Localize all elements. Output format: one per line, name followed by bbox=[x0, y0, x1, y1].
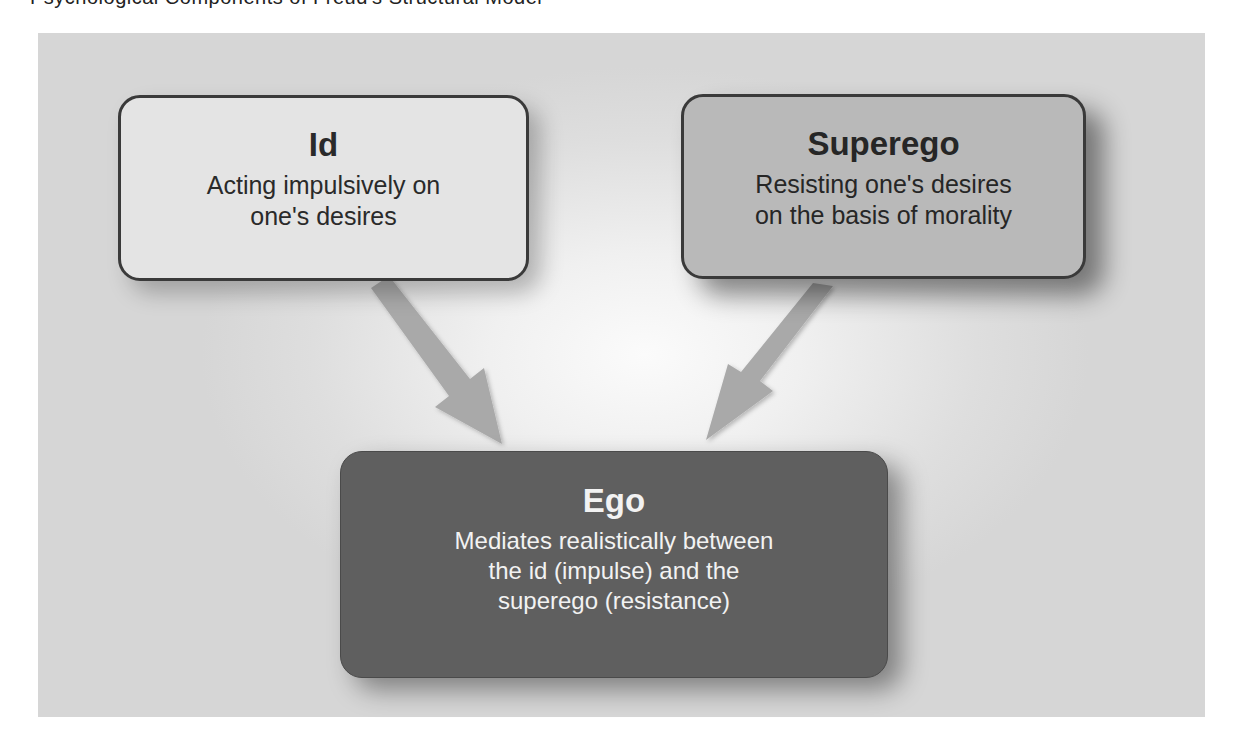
node-ego-title: Ego bbox=[341, 482, 887, 520]
node-superego-desc-line-1: Resisting one's desires bbox=[684, 169, 1083, 200]
node-id-desc-line-2: one's desires bbox=[121, 201, 526, 232]
node-ego-desc-line-3: superego (resistance) bbox=[341, 586, 887, 616]
node-superego: Superego Resisting one's desires on the … bbox=[681, 94, 1086, 279]
node-ego-desc-line-1: Mediates realistically between bbox=[341, 526, 887, 556]
node-id-desc-line-1: Acting impulsively on bbox=[121, 170, 526, 201]
node-superego-title: Superego bbox=[684, 125, 1083, 163]
arrow-id-to-ego bbox=[371, 276, 502, 444]
node-ego: Ego Mediates realistically between the i… bbox=[340, 451, 888, 678]
arrow-superego-to-ego bbox=[706, 283, 833, 440]
node-superego-desc-line-2: on the basis of morality bbox=[684, 200, 1083, 231]
node-id-title: Id bbox=[121, 126, 526, 164]
node-id: Id Acting impulsively on one's desires bbox=[118, 95, 529, 281]
node-ego-desc-line-2: the id (impulse) and the bbox=[341, 556, 887, 586]
